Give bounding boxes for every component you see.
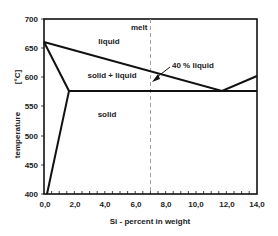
svg-text:4,0: 4,0: [99, 200, 111, 209]
annotation-40-percent-liquid: 40 % liquid: [172, 61, 214, 70]
y-tick-labels: 700 650 600 550 500 450 400: [25, 15, 39, 199]
solidus-solvus-line: [44, 42, 69, 194]
svg-text:12,0: 12,0: [219, 200, 235, 209]
phase-diagram: 700 650 600 550 500 450 400 0,0 2,0 4,0 …: [0, 0, 278, 236]
svg-text:450: 450: [25, 161, 39, 170]
svg-text:400: 400: [25, 190, 39, 199]
svg-text:600: 600: [25, 73, 39, 82]
svg-text:2,0: 2,0: [69, 200, 81, 209]
region-label-solid: solid: [98, 110, 117, 119]
region-label-liquid: liquid: [98, 37, 119, 46]
svg-text:6,0: 6,0: [130, 200, 142, 209]
svg-text:10,0: 10,0: [188, 200, 204, 209]
svg-text:700: 700: [25, 15, 39, 24]
svg-text:650: 650: [25, 44, 39, 53]
svg-text:500: 500: [25, 132, 39, 141]
x-tick-labels: 0,0 2,0 4,0 6,0 8,0 10,0 12,0 14,0: [39, 200, 265, 209]
x-axis-title: Si - percent in weight: [110, 217, 191, 226]
svg-text:0,0: 0,0: [39, 200, 51, 209]
y-axis-title: temperature: [13, 111, 22, 158]
svg-text:550: 550: [25, 102, 39, 111]
y-axis-unit: [°C]: [13, 70, 22, 85]
region-label-melt: melt: [131, 23, 148, 32]
region-label-solid-liquid: solid + liquid: [87, 71, 136, 80]
svg-text:8,0: 8,0: [160, 200, 172, 209]
svg-text:14,0: 14,0: [249, 200, 265, 209]
